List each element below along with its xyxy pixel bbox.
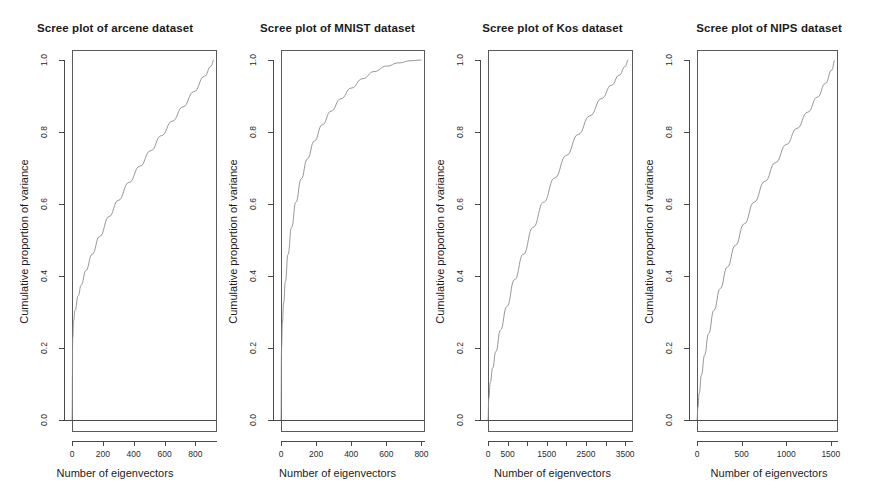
cumulative-variance-curve (281, 60, 421, 420)
curve-layer (0, 0, 230, 500)
y-axis-title: Cumulative proportion of variance (643, 92, 656, 392)
cumulative-variance-curve (72, 60, 214, 420)
scree-plot-panel: Scree plot of MNIST dataset0.00.20.40.60… (230, 0, 445, 500)
figure-root: Scree plot of arcene dataset0.00.20.40.6… (0, 0, 878, 500)
scree-plot-panel: Scree plot of NIPS dataset0.00.20.40.60.… (660, 0, 878, 500)
scree-plot-panel: Scree plot of arcene dataset0.00.20.40.6… (0, 0, 230, 500)
curve-layer (445, 0, 660, 500)
curve-layer (660, 0, 878, 500)
cumulative-variance-curve (488, 60, 628, 420)
scree-plot-panel: Scree plot of Kos dataset0.00.20.40.60.8… (445, 0, 660, 500)
curve-layer (230, 0, 445, 500)
cumulative-variance-curve (697, 60, 835, 420)
